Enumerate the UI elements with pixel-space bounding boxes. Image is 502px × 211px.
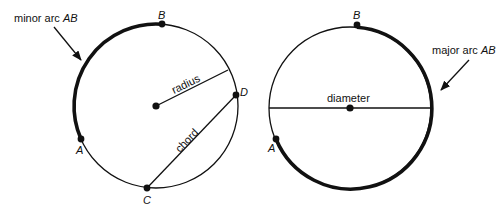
minor-arc-label: minor arc AB — [14, 12, 78, 24]
diameter-label: diameter — [327, 92, 370, 104]
label-d-left: D — [240, 86, 248, 98]
label-a-left: A — [75, 144, 83, 156]
point-b-right — [354, 22, 361, 29]
point-d-left — [233, 92, 240, 99]
major-arc-arrow — [441, 60, 469, 90]
minor-arc-ab — [74, 24, 162, 139]
point-c-left — [144, 185, 151, 192]
left-circle-figure: B A D C radius chord minor arc AB — [14, 9, 248, 206]
center-point-right — [346, 104, 353, 111]
label-b-right: B — [353, 9, 360, 21]
point-a-left — [78, 136, 85, 143]
point-b-left — [159, 21, 166, 28]
center-point-left — [152, 102, 159, 109]
minor-arc-arrow — [54, 27, 81, 60]
label-a-right: A — [267, 142, 275, 154]
label-c-left: C — [143, 194, 151, 206]
right-circle-figure: B A diameter major arc AB — [267, 9, 496, 189]
radius-label: radius — [170, 72, 203, 96]
chord-label: chord — [173, 126, 201, 154]
major-arc-label: major arc AB — [432, 44, 496, 56]
circle-diagram: B A D C radius chord minor arc AB B A di… — [0, 0, 502, 211]
label-b-left: B — [158, 9, 165, 21]
